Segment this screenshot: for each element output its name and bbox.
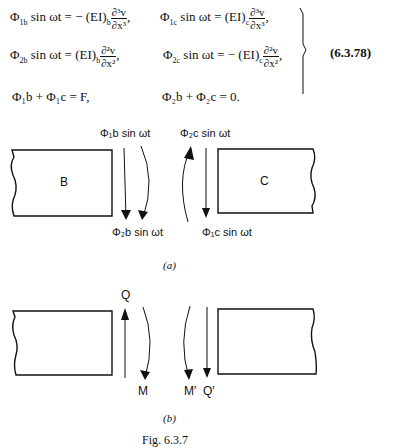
label-phi2b: Φ₂b sin ωt <box>112 226 163 238</box>
block-right-b <box>218 309 316 374</box>
arrow-m <box>143 307 150 378</box>
arrow-phi1b <box>124 148 126 218</box>
arrow-phi2c-curved <box>182 150 190 222</box>
label-phi1b: Φ₁b sin ωt <box>100 127 150 139</box>
label-phi1c: Φ₁c sin ωt <box>202 226 252 238</box>
block-b-label: B <box>60 175 68 189</box>
block-c-label: C <box>260 174 269 188</box>
label-phi2c: Φ₂c sin ωt <box>180 127 230 139</box>
label-m: M <box>138 384 148 398</box>
figure-caption: Fig. 6.3.7 <box>142 433 188 448</box>
arrow-m-prime <box>184 306 190 378</box>
caption-a: (a) <box>163 259 176 271</box>
caption-b: (b) <box>163 412 176 424</box>
label-q: Q <box>121 288 130 302</box>
equation-brace <box>300 8 306 94</box>
label-q-prime: Q′ <box>203 384 215 398</box>
arrow-phi2b-curved <box>141 146 149 218</box>
block-left-b <box>13 311 112 375</box>
label-m-prime: M′ <box>184 384 196 398</box>
